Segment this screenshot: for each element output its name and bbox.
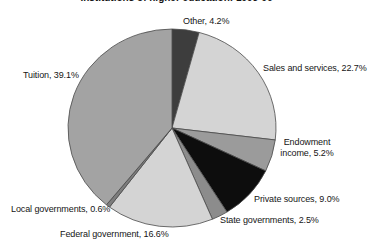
slice-label-federal-government: Federal government, 16.6%: [60, 229, 169, 240]
slice-label-local-governments: Local governments, 0.6%: [11, 204, 110, 215]
slice-label-tuition: Tuition, 39.1%: [23, 70, 79, 81]
slice-label-private-sources: Private sources, 9.0%: [254, 194, 339, 205]
slice-label-sales-and-services: Sales and services, 22.7%: [263, 63, 367, 74]
slice-label-state-governments: State governments, 2.5%: [220, 215, 319, 226]
slice-label-endowment-income: Endowment income, 5.2%: [274, 137, 340, 159]
slice-label-other: Other, 4.2%: [183, 16, 229, 27]
figure-canvas: Institutions of higher education: 1995-9…: [0, 0, 371, 247]
